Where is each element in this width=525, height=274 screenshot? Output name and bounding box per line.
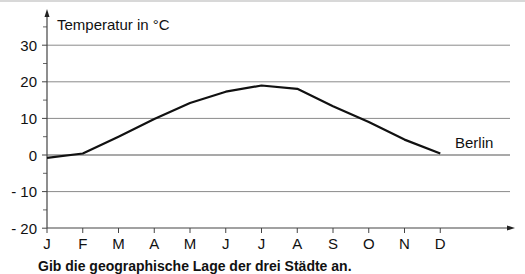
y-axis-ticks: 3020100- 10- 20 [11,27,47,237]
y-tick-label: 0 [29,147,37,164]
x-tick-label: N [399,235,410,252]
x-axis-ticks: JFMAMJJASOND [43,228,446,252]
y-tick-label: - 20 [11,220,37,237]
berlin-temperature-line [47,86,440,158]
x-tick-label: O [363,235,375,252]
x-axis-arrow-icon [507,226,515,231]
caption-text: Gib die geographische Lage der drei Städ… [38,258,352,274]
y-axis-title: Temperatur in °C [57,16,170,33]
x-tick-label: D [435,235,446,252]
x-tick-label: J [258,235,266,252]
y-axis-arrow-icon [45,9,50,17]
x-tick-label: J [43,235,51,252]
grid-lines [47,45,510,191]
y-tick-label: 30 [20,37,37,54]
y-tick-label: 20 [20,73,37,90]
x-tick-label: A [292,235,302,252]
y-tick-label: - 10 [11,183,37,200]
x-tick-label: F [78,235,87,252]
y-tick-label: 10 [20,110,37,127]
series-label-berlin: Berlin [455,134,493,151]
x-tick-label: S [328,235,338,252]
x-tick-label: A [149,235,159,252]
x-tick-label: M [184,235,197,252]
x-tick-label: M [112,235,125,252]
x-tick-label: J [222,235,230,252]
